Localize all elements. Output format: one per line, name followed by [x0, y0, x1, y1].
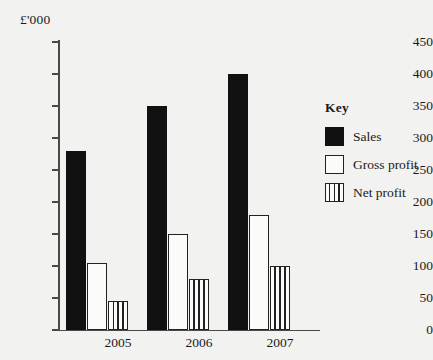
legend-swatch-sales-icon: [325, 127, 344, 146]
y-axis-tick-label: 450: [387, 35, 433, 49]
y-axis-unit-label: £'000: [20, 12, 50, 28]
legend-item-sales: Sales: [325, 127, 430, 146]
bar-2005-gross: [87, 263, 107, 330]
legend-swatch-net-icon: [325, 183, 344, 202]
bar-chart: £'000 050100150200250300350400450 200520…: [0, 0, 433, 360]
bar-2005-sales: [66, 151, 86, 330]
legend: Key SalesGross profitNet profit: [325, 100, 430, 211]
bar-2006-sales: [147, 106, 167, 330]
bar-2006-net: [189, 279, 209, 330]
bar-2007-net: [270, 266, 290, 330]
x-axis-label-2006: 2006: [164, 335, 234, 351]
legend-swatch-gross-icon: [325, 155, 344, 174]
x-axis-label-2007: 2007: [245, 335, 315, 351]
bar-2006-gross: [168, 234, 188, 330]
legend-item-gross: Gross profit: [325, 155, 430, 174]
y-axis-tick-label: 400: [387, 67, 433, 81]
legend-title: Key: [325, 100, 430, 116]
legend-item-net: Net profit: [325, 183, 430, 202]
bar-2007-sales: [228, 74, 248, 330]
legend-item-label: Sales: [353, 129, 382, 145]
y-axis-tick-label: 50: [387, 291, 433, 305]
bar-2005-net: [108, 301, 128, 330]
legend-item-label: Net profit: [353, 185, 406, 201]
bar-2007-gross: [249, 215, 269, 330]
x-axis-label-2005: 2005: [83, 335, 153, 351]
plot-area: [58, 42, 307, 330]
y-axis-tick-label: 150: [387, 227, 433, 241]
y-axis-tick-label: 0: [387, 323, 433, 337]
y-axis-tick-label: 100: [387, 259, 433, 273]
legend-item-label: Gross profit: [353, 157, 418, 173]
